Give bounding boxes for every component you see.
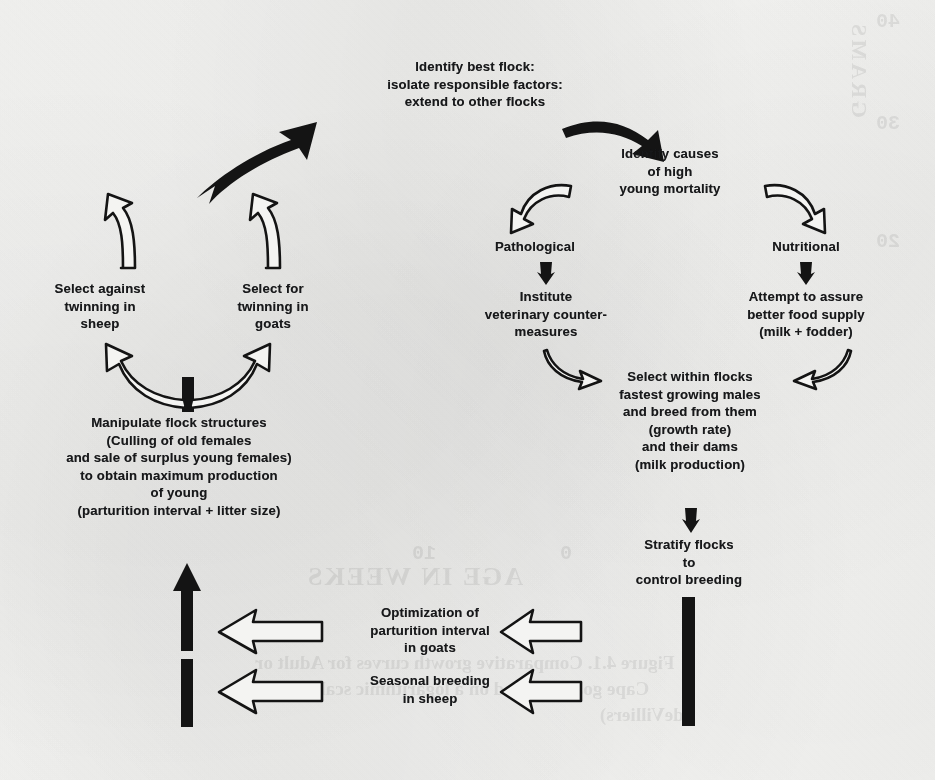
- ghost-age-in-weeks: AGE IN WEEKS: [306, 562, 523, 592]
- node-select-against-twinning-sheep: Select against twinning in sheep: [20, 280, 180, 333]
- ghost-tick-0: 0: [560, 542, 572, 565]
- arrow-causes-to-nutritional: [756, 178, 836, 244]
- node-select-within-flocks: Select within flocks fastest growing mal…: [580, 368, 800, 474]
- ghost-tick-30: 30: [876, 112, 900, 135]
- ghost-caption-line-3: deVilliers): [600, 704, 684, 726]
- arrow-optimization-out: [215, 608, 325, 656]
- node-institute-veterinary: Institute veterinary counter- measures: [456, 288, 636, 341]
- ghost-tick-40: 40: [876, 10, 900, 33]
- arrow-causes-to-pathological: [500, 178, 580, 244]
- arrow-manipulate-to-goats: [186, 340, 282, 412]
- ghost-tick-20: 20: [876, 230, 900, 253]
- node-identify-causes: Identify causes of high young mortality: [580, 145, 760, 198]
- ghost-grams-label: GRAMS: [846, 21, 872, 118]
- arrow-nutritional-to-attempt: [796, 262, 816, 286]
- node-stratify-flocks: Stratify flocks to control breeding: [601, 536, 777, 589]
- node-select-for-twinning-goats: Select for twinning in goats: [198, 280, 348, 333]
- arrow-select-to-stratify: [681, 508, 701, 534]
- node-manipulate-flock-structures: Manipulate flock structures (Culling of …: [14, 414, 344, 520]
- node-pathological: Pathological: [465, 238, 605, 256]
- node-identify-best-flock: Identify best flock: isolate responsible…: [330, 58, 620, 111]
- arrow-seasonal-out: [215, 668, 325, 716]
- diagram-canvas: GRAMS 40 30 20 10 0 AGE IN WEEKS Figure …: [0, 0, 935, 780]
- arrow-cycle-close-up: [195, 120, 325, 210]
- node-optimization-goats: Optimization of parturition interval in …: [340, 604, 520, 657]
- arrow-manipulate-to-sheep: [94, 340, 190, 412]
- arrow-sheep-up: [95, 192, 151, 270]
- node-attempt-food-supply: Attempt to assure better food supply (mi…: [706, 288, 906, 341]
- node-nutritional: Nutritional: [736, 238, 876, 256]
- arrow-up-to-manipulate: [170, 563, 204, 728]
- node-seasonal-sheep: Seasonal breeding in sheep: [340, 672, 520, 707]
- arrow-pathological-to-institute: [536, 262, 556, 286]
- bar-stratify-down: [682, 597, 695, 726]
- ghost-tick-10: 10: [412, 542, 436, 565]
